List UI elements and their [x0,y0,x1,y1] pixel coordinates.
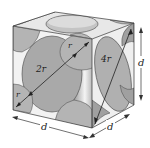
label-4r: 4r [100,54,112,64]
fcc-unit-cell-diagram: r 2r r 4r d d d [0,0,150,148]
label-d-side: d [107,121,113,132]
label-2r: 2r [35,64,47,74]
cube-front-face [13,26,104,128]
label-d-front: d [41,121,47,132]
cube-right-face [88,23,137,128]
label-d-height: d [138,57,144,68]
